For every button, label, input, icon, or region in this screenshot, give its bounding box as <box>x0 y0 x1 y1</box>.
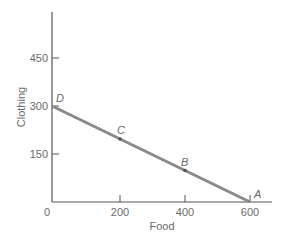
x-axis-label: Food <box>149 220 174 232</box>
point-label-a: A <box>253 188 261 200</box>
ppf-line <box>52 106 250 202</box>
point-label-b: B <box>181 156 188 168</box>
point-b-marker <box>183 169 187 173</box>
x-tick-label-600: 600 <box>241 206 259 218</box>
x-tick-label-200: 200 <box>111 206 129 218</box>
point-label-c: C <box>117 124 125 136</box>
y-tick-label-450: 450 <box>30 52 48 64</box>
y-axis-label: Clothing <box>15 87 27 127</box>
y-tick-label-150: 150 <box>30 148 48 160</box>
y-tick-label-300: 300 <box>30 100 48 112</box>
x-tick-label-0: 0 <box>44 206 50 218</box>
production-possibilities-chart: 450 300 150 0 200 400 600 Food Clothing … <box>0 0 284 239</box>
x-tick-label-400: 400 <box>176 206 194 218</box>
point-label-d: D <box>56 92 64 104</box>
point-c-marker <box>118 137 122 141</box>
